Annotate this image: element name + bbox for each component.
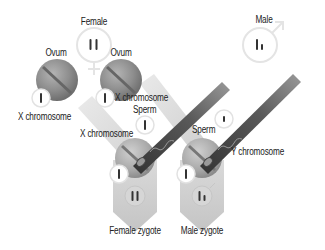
sperm-x-chromosome-badge xyxy=(136,116,154,134)
male-symbol-icon xyxy=(243,22,283,62)
y-chromosome-label: Y chromosome xyxy=(231,146,284,157)
sperm-left-label: Sperm xyxy=(133,104,156,115)
ovum-left-chromosome-badge xyxy=(32,89,50,107)
female-zygote-label: Female zygote xyxy=(109,225,161,236)
ovum-right-chromosome-badge xyxy=(96,89,114,107)
male-zygote-label: Male zygote xyxy=(181,225,223,236)
male-zygote-ovum-badge xyxy=(177,165,195,183)
fertilization-diagram xyxy=(0,0,325,250)
ovum-right-label: Ovum xyxy=(110,47,131,58)
sperm-right-label: Sperm xyxy=(192,124,215,135)
ovum-left-label: Ovum xyxy=(45,47,66,58)
female-label: Female xyxy=(81,16,107,27)
x-chromosome-sperm-label: X chromosome xyxy=(80,128,133,139)
female-zygote-xx-badge xyxy=(125,186,145,206)
sperm-y-chromosome-badge xyxy=(215,110,233,128)
x-chromosome-left-label: X chromosome xyxy=(18,111,71,122)
female-zygote-ovum-badge xyxy=(110,165,128,183)
male-label: Male xyxy=(255,14,272,25)
x-chromosome-right-label: X chromosome xyxy=(115,92,168,103)
